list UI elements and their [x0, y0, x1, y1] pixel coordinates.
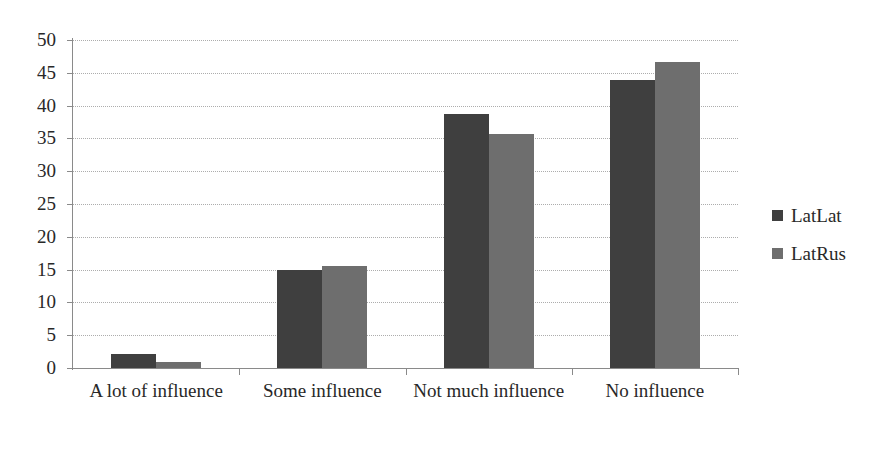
bar-latrus-0 [156, 362, 201, 368]
bar-latlat-3 [610, 80, 655, 368]
x-axis-category-label: No influence [572, 379, 738, 402]
y-axis-label: 40 [10, 96, 56, 115]
x-axis-tick [738, 368, 739, 375]
y-axis-label: 20 [10, 227, 56, 246]
bar-latlat-0 [111, 354, 156, 368]
y-axis-label: 50 [10, 30, 56, 49]
bar-latlat-2 [444, 114, 489, 368]
legend-swatch-icon [772, 210, 783, 221]
legend-item-latrus[interactable]: LatRus [772, 234, 846, 272]
bar-latrus-3 [655, 62, 700, 368]
y-axis-label: 15 [10, 260, 56, 279]
chart-legend: LatLatLatRus [772, 196, 846, 272]
bar-latrus-1 [322, 266, 367, 368]
x-axis-tick [572, 368, 573, 375]
legend-label: LatLat [791, 206, 842, 225]
legend-item-latlat[interactable]: LatLat [772, 196, 846, 234]
y-axis-label: 30 [10, 161, 56, 180]
gridline [73, 40, 738, 41]
y-axis-label: 25 [10, 194, 56, 213]
y-axis-label: 0 [10, 358, 56, 377]
y-axis-label: 10 [10, 292, 56, 311]
y-axis-label: 5 [10, 325, 56, 344]
x-axis-category-label: Not much influence [406, 379, 572, 402]
y-axis-label: 45 [10, 63, 56, 82]
x-axis-tick [239, 368, 240, 375]
bar-latrus-2 [489, 134, 534, 368]
bar-latlat-1 [277, 270, 322, 368]
gridline [73, 73, 738, 74]
legend-swatch-icon [772, 248, 783, 259]
x-axis-category-label: A lot of influence [73, 379, 239, 402]
x-axis-category-label: Some influence [239, 379, 405, 402]
plot-area [73, 40, 738, 368]
bar-chart: 05101520253035404550 A lot of influenceS… [0, 0, 881, 451]
y-axis-label: 35 [10, 128, 56, 147]
legend-label: LatRus [791, 244, 846, 263]
x-axis-tick [406, 368, 407, 375]
